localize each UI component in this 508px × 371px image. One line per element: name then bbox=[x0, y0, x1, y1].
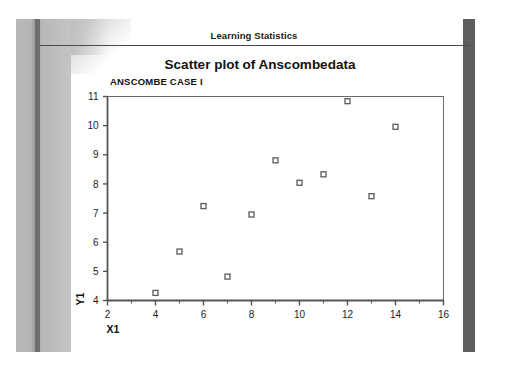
y-tick-label: 8 bbox=[93, 179, 99, 190]
x-tick-label: 12 bbox=[342, 309, 354, 320]
y-tick-label: 9 bbox=[93, 149, 99, 160]
x-tick-label: 14 bbox=[390, 309, 402, 320]
data-point-marker bbox=[249, 212, 254, 217]
data-points bbox=[153, 99, 398, 296]
data-point-marker bbox=[369, 194, 374, 199]
data-point-marker bbox=[201, 204, 206, 209]
x-tick-label: 10 bbox=[294, 309, 306, 320]
data-point-marker bbox=[273, 158, 278, 163]
data-point-marker bbox=[345, 99, 350, 104]
y-tick-label: 5 bbox=[93, 266, 99, 277]
x-tick-label: 8 bbox=[249, 309, 255, 320]
y-tick-label: 4 bbox=[93, 295, 99, 306]
x-tick-label: 16 bbox=[438, 309, 450, 320]
x-axis-title: X1 bbox=[107, 323, 120, 335]
data-point-marker bbox=[177, 249, 182, 254]
y-tick-label: 7 bbox=[93, 208, 99, 219]
x-tick-label: 6 bbox=[201, 309, 207, 320]
data-point-marker bbox=[297, 180, 302, 185]
y-tick-label: 10 bbox=[87, 120, 99, 131]
data-point-marker bbox=[153, 290, 158, 295]
scatter-plot: 4567891011246810121416 X1Y1 bbox=[0, 0, 508, 371]
slide-page: Learning Statistics Scatter plot of Ansc… bbox=[0, 0, 508, 371]
data-point-marker bbox=[321, 172, 326, 177]
y-axis-title: Y1 bbox=[74, 292, 86, 305]
x-tick-label: 2 bbox=[105, 309, 111, 320]
data-point-marker bbox=[225, 274, 230, 279]
x-tick-label: 4 bbox=[153, 309, 159, 320]
data-point-marker bbox=[393, 124, 398, 129]
y-tick-label: 6 bbox=[93, 237, 99, 248]
y-tick-label: 11 bbox=[88, 91, 99, 102]
